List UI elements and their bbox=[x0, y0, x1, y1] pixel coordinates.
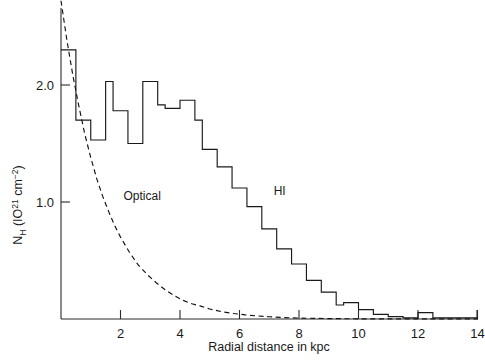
y-tick-label: 1.0 bbox=[36, 195, 54, 210]
y-axis-symbol: N bbox=[11, 236, 25, 245]
x-tick-label: 8 bbox=[295, 326, 302, 341]
x-tick-label: 2 bbox=[117, 326, 124, 341]
y-axis-title: NH (IO21 cm−2) bbox=[10, 165, 28, 245]
annotation-optical: Optical bbox=[124, 189, 161, 203]
annotation-hi-label: HI bbox=[274, 184, 286, 198]
x-axis-ticks: 2468101214 bbox=[117, 310, 485, 341]
x-tick-label: 14 bbox=[470, 326, 484, 341]
annotation-hi: HI bbox=[274, 184, 286, 198]
y-axis-open: (IO bbox=[11, 208, 25, 229]
figure-container: 1.02.0 2468101214 Optical HI Radial dist… bbox=[0, 0, 485, 364]
x-tick-label: 6 bbox=[236, 326, 243, 341]
x-tick-label: 10 bbox=[351, 326, 365, 341]
y-axis-close: ) bbox=[11, 165, 25, 169]
y-axis-unit: cm bbox=[11, 179, 25, 199]
x-tick-label: 12 bbox=[411, 326, 425, 341]
y-axis-exponent: 21 bbox=[10, 199, 20, 209]
annotation-optical-label: Optical bbox=[124, 189, 161, 203]
axes-group bbox=[61, 8, 478, 319]
hi-radial-profile-chart: 1.02.0 2468101214 Optical HI Radial dist… bbox=[0, 0, 485, 364]
hi-step-histogram bbox=[61, 50, 478, 318]
x-tick-label: 4 bbox=[176, 326, 183, 341]
optical-exponential-curve bbox=[61, 1, 478, 319]
x-axis-title-group: Radial distance in kpc bbox=[208, 340, 330, 354]
y-axis-unit-exponent: −2 bbox=[10, 169, 20, 179]
y-tick-label: 2.0 bbox=[36, 78, 54, 93]
y-axis-ticks: 1.02.0 bbox=[36, 78, 70, 210]
x-axis-title: Radial distance in kpc bbox=[208, 340, 330, 354]
y-axis-title-group: NH (IO21 cm−2) bbox=[10, 165, 28, 245]
